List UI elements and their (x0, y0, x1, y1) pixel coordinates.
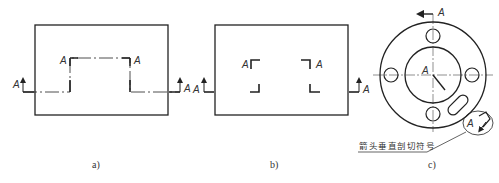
part-outline (35, 25, 168, 115)
part-outline (215, 25, 348, 115)
cutting-plane-line (23, 58, 180, 92)
caption-c: c) (428, 159, 436, 171)
section-label: A (59, 55, 67, 66)
arc-slot (446, 93, 470, 117)
section-label: A (192, 84, 200, 95)
annotation-text: 箭头垂直剖切符号 (359, 141, 435, 151)
section-label: A (133, 55, 141, 66)
drawing-canvas: A A A A a) A A A A b) A (0, 0, 499, 183)
caption-a: a) (92, 159, 100, 171)
caption-b: b) (270, 159, 278, 171)
panel-b: A A A A b) (192, 25, 370, 171)
section-label: A (12, 79, 20, 90)
section-label: A (466, 118, 474, 129)
section-label: A (315, 59, 323, 70)
section-label: A (437, 7, 445, 18)
panel-c: A A A 箭头垂直剖切符号 c) (358, 7, 493, 171)
section-label: A (362, 84, 370, 95)
panel-a: A A A A a) (12, 25, 191, 171)
section-label: A (421, 65, 429, 76)
section-label: A (183, 83, 191, 94)
section-label: A (241, 59, 249, 70)
